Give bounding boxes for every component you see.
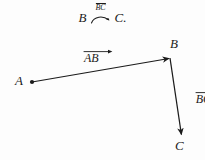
- vector-diagram-figure: B BC C. AB: [0, 0, 205, 160]
- segment-ab: [32, 59, 169, 83]
- point-label-a: A: [15, 74, 23, 87]
- vector-ab-label: AB: [84, 48, 99, 64]
- vector-canvas: [0, 0, 205, 160]
- point-marker-a: [30, 80, 34, 84]
- vector-bc-text: BC: [196, 92, 205, 106]
- segment-bc: [170, 58, 181, 135]
- vector-ab-text: AB: [84, 51, 99, 65]
- point-label-b: B: [170, 37, 178, 50]
- point-label-c: C: [175, 139, 184, 152]
- vector-bc-label: BC: [196, 89, 205, 105]
